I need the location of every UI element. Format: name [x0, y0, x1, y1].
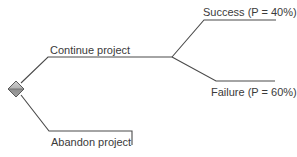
branch-label-success: Success (P = 40%) — [203, 6, 297, 18]
branch-failure-line — [172, 57, 275, 81]
branch-success-line — [172, 20, 276, 57]
branch-label-continue-project: Continue project — [50, 44, 130, 56]
decision-tree-diagram: Continue project Success (P = 40%) Failu… — [0, 0, 297, 157]
decision-tree-lines — [0, 0, 297, 157]
branch-continue-project-line — [21, 57, 172, 83]
branch-label-abandon-project: Abandon project — [51, 136, 131, 148]
diamond-decision-node-icon — [8, 81, 24, 97]
branch-label-failure: Failure (P = 60%) — [211, 86, 297, 98]
